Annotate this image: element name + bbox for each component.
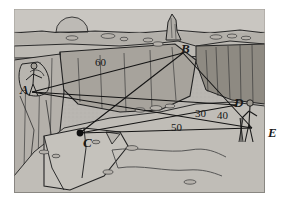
central-mesa <box>60 44 196 112</box>
point-label-D: D <box>234 96 243 109</box>
point-label-E: E <box>268 126 277 139</box>
illustration-canvas: A B C D E 60 30 40 50 <box>0 0 290 210</box>
sky-band <box>14 9 265 31</box>
measure-label-50: 50 <box>171 122 182 133</box>
point-label-A: A <box>20 83 29 96</box>
measure-label-40: 40 <box>217 110 228 121</box>
canyon-survey-illustration <box>0 0 290 210</box>
scene-body <box>14 9 265 193</box>
measure-label-30: 30 <box>195 108 206 119</box>
point-label-C: C <box>83 136 92 149</box>
measure-label-60: 60 <box>95 57 106 68</box>
point-label-B: B <box>181 42 190 55</box>
